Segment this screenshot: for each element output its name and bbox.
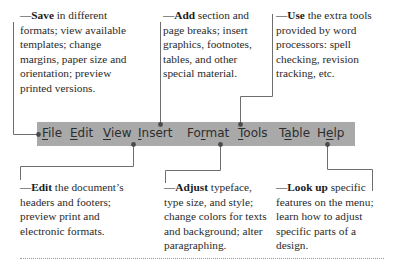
annotation-text: in different formats; view available tem…: [20, 9, 126, 94]
annotation-add: —Add section and page breaks; insert gra…: [163, 8, 271, 81]
annotation-keyword: Save: [31, 9, 54, 21]
annotation-edit: —Edit the document’s headers and footers…: [20, 180, 138, 238]
menu-item-help[interactable]: Help: [317, 126, 344, 140]
annotation-dash: —: [163, 9, 174, 21]
mnemonic-underline: E: [70, 126, 78, 140]
menu-item-insert[interactable]: Insert: [138, 126, 172, 140]
annotation-save: —Save in different formats; view availab…: [20, 8, 138, 96]
mnemonic-underline: V: [103, 126, 111, 140]
menu-item-tools[interactable]: Tools: [238, 126, 268, 140]
connector-format-adjust: [166, 145, 221, 183]
annotation-lookup: —Look up specific features on the menu; …: [276, 180, 384, 253]
connector-view-edit: [21, 145, 134, 180]
annotation-dash: —: [20, 9, 31, 21]
annotation-keyword: Look up: [287, 181, 328, 193]
menu-item-edit[interactable]: Edit: [70, 126, 93, 140]
annotation-keyword: Add: [174, 9, 195, 21]
menu-item-format[interactable]: Format: [187, 126, 229, 140]
menu-item-table[interactable]: Table: [279, 126, 310, 140]
annotation-keyword: Use: [287, 9, 305, 21]
menu-bar: File Edit View Insert Format Tools Table…: [37, 122, 355, 146]
menu-item-file[interactable]: File: [42, 126, 62, 140]
annotation-keyword: Adjust: [175, 181, 208, 193]
mnemonic-underline: a: [284, 126, 291, 140]
annotation-adjust: —Adjust typeface, type size, and style; …: [164, 180, 272, 253]
annotation-dash: —: [20, 181, 31, 193]
annotation-dash: —: [276, 181, 287, 193]
annotation-dash: —: [164, 181, 175, 193]
annotation-use: —Use the extra tools provided by word pr…: [276, 8, 384, 81]
dotted-divider: [20, 258, 384, 259]
annotation-dash: —: [276, 9, 287, 21]
menu-item-view[interactable]: View: [103, 126, 131, 140]
annotation-keyword: Edit: [31, 181, 52, 193]
